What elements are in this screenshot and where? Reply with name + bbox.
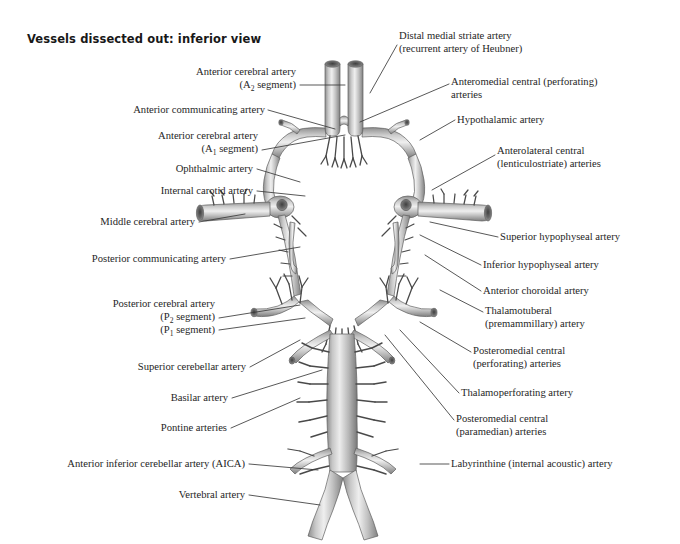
label-anterior-choroidal: Anterior choroidal artery [483,285,589,298]
leader-hypothalamic-artery [420,120,455,140]
leader-posteromedial-central-perforating [420,322,471,352]
label-posteromedial-central-paramedian: Posteromedial central(paramedian) arteri… [456,413,548,438]
label-hypothalamic-artery: Hypothalamic artery [457,114,544,127]
label-middle-cerebral-artery: Middle cerebral artery [0,216,195,229]
label-posteromedial-central-perforating: Posteromedial central(perforating) arter… [473,345,565,370]
leader-anterior-cerebral-a1 [262,135,345,150]
label-thalamotuberal: Thalamotuberal(premammillary) artery [485,305,585,330]
label-posterior-cerebral-p1: (P1 segment) [0,324,215,337]
label-superior-cerebellar-artery: Superior cerebellar artery [0,361,246,374]
leader-ophthalmic-artery [257,169,300,182]
leader-superior-hypophyseal [430,222,498,237]
leader-pontine-arteries [231,398,300,428]
leader-inferior-hypophyseal [420,235,481,265]
leader-distal-medial-striate [370,45,397,93]
leader-posterior-communicating-artery [230,247,300,259]
label-thalamoperforating: Thalamoperforating artery [461,387,573,400]
leader-thalamotuberal [440,290,483,312]
label-inferior-hypophyseal: Inferior hypophyseal artery [483,259,599,272]
label-anterior-cerebral-a2: Anterior cerebral artery(A2 segment) [0,66,296,91]
leader-superior-cerebellar-artery [250,340,300,367]
leader-basilar-artery [232,370,322,398]
figure-canvas: Vessels dissected out: inferior view [0,0,680,544]
label-internal-carotid-artery: Internal carotid artery [0,185,253,198]
label-anteromedial-central: Anteromedial central (perforating)arteri… [451,76,597,101]
label-pontine-arteries: Pontine arteries [0,422,227,435]
label-posterior-cerebral-p2: Posterior cerebral artery(P2 segment) [0,298,215,323]
leader-posteromedial-central-paramedian [385,335,454,420]
leader-posterior-cerebral-p2 [219,305,300,318]
label-anterior-communicating: Anterior communicating artery [0,104,265,117]
leader-anterolateral-central [432,155,495,190]
label-posterior-communicating-artery: Posterior communicating artery [0,253,226,266]
label-superior-hypophyseal: Superior hypophyseal artery [500,231,620,244]
leader-posterior-cerebral-p1 [219,318,305,330]
leader-vertebral-artery [249,495,320,505]
label-anterolateral-central: Anterolateral central(lenticulostriate) … [497,145,601,170]
label-vertebral-artery: Vertebral artery [0,489,245,502]
label-aica: Anterior inferior cerebellar artery (AIC… [0,458,245,471]
leader-internal-carotid-artery [257,191,305,196]
label-distal-medial-striate: Distal medial striate artery(recurrent a… [399,30,522,55]
label-labyrinthine-artery: Labyrinthine (internal acoustic) artery [451,458,612,471]
label-anterior-cerebral-a1: Anterior cerebral artery(A1 segment) [0,130,258,155]
leader-anteromedial-central [360,84,449,122]
leader-anterior-communicating [268,110,335,129]
label-basilar-artery: Basilar artery [0,392,228,405]
leader-middle-cerebral-artery [199,214,245,222]
leader-aica [249,464,318,470]
label-ophthalmic-artery: Ophthalmic artery [0,163,253,176]
